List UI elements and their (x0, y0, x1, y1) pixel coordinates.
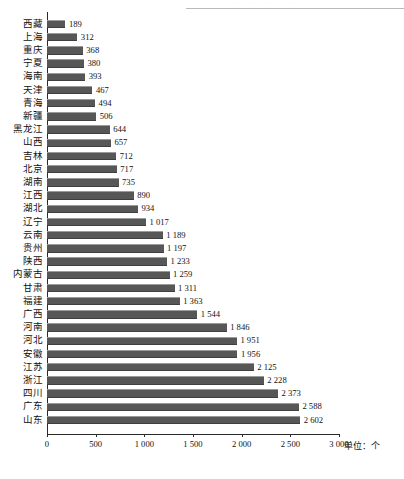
category-label: 云南 (0, 229, 43, 242)
category-label: 黑龙江 (0, 123, 43, 136)
bar-fill (47, 125, 110, 133)
bar (47, 310, 197, 318)
x-tick (96, 434, 97, 437)
bar-row: 北京717 (0, 163, 404, 176)
bar (47, 86, 92, 94)
bar-row: 江苏2 125 (0, 361, 404, 374)
bar-fill (47, 152, 116, 160)
value-label: 189 (69, 18, 82, 31)
value-label: 368 (86, 44, 99, 57)
category-label: 甘肃 (0, 282, 43, 295)
value-label: 1 197 (167, 242, 186, 255)
category-label: 天津 (0, 84, 43, 97)
bar-fill (47, 363, 254, 371)
bar-row: 山西657 (0, 136, 404, 149)
category-label: 四川 (0, 387, 43, 400)
bar-row: 广东2 588 (0, 400, 404, 413)
bar (47, 125, 110, 133)
bar-fill (47, 59, 84, 67)
value-label: 1 259 (173, 268, 192, 281)
category-label: 青海 (0, 97, 43, 110)
category-label: 山西 (0, 136, 43, 149)
value-label: 467 (96, 84, 109, 97)
category-label: 广东 (0, 400, 43, 413)
bar (47, 139, 111, 147)
bar-row: 宁夏380 (0, 57, 404, 70)
bar-fill (47, 112, 96, 120)
bar (47, 231, 163, 239)
bar (47, 33, 77, 41)
category-label: 河南 (0, 321, 43, 334)
bar-row: 上海312 (0, 31, 404, 44)
bar-row: 湖北934 (0, 202, 404, 215)
bar-fill (47, 46, 83, 54)
bar-row: 陕西1 233 (0, 255, 404, 268)
bar-fill (47, 33, 77, 41)
bar (47, 297, 180, 305)
page-header: ·· ·· ··· · ·· · (186, 0, 404, 10)
value-label: 1 846 (230, 321, 249, 334)
bar-row: 江西890 (0, 189, 404, 202)
bar (47, 403, 299, 411)
value-label: 644 (113, 123, 126, 136)
bar (47, 323, 227, 331)
bar-row: 湖南735 (0, 176, 404, 189)
value-label: 1 189 (166, 229, 185, 242)
category-label: 广西 (0, 308, 43, 321)
bar (47, 152, 116, 160)
category-label: 海南 (0, 70, 43, 83)
category-label: 西藏 (0, 18, 43, 31)
x-tick-label: 1 000 (135, 439, 154, 449)
value-label: 494 (99, 97, 112, 110)
bar-fill (47, 416, 300, 424)
bar (47, 363, 254, 371)
bar (47, 20, 65, 28)
bar-fill (47, 139, 111, 147)
bar-row: 辽宁1 017 (0, 216, 404, 229)
value-label: 312 (81, 31, 94, 44)
x-tick (242, 434, 243, 437)
bar (47, 376, 264, 384)
bar-row: 河北1 951 (0, 334, 404, 347)
bar-row: 云南1 189 (0, 229, 404, 242)
bar-row: 海南393 (0, 70, 404, 83)
value-label: 890 (137, 189, 150, 202)
x-tick (144, 434, 145, 437)
bar (47, 73, 85, 81)
value-label: 393 (89, 70, 102, 83)
bar-row: 新疆506 (0, 110, 404, 123)
bar-row: 青海494 (0, 97, 404, 110)
page-header-ghost-text: ·· ·· ··· · ·· · (234, 0, 307, 5)
bar-row: 浙江2 228 (0, 374, 404, 387)
bar-fill (47, 99, 95, 107)
bar-row: 河南1 846 (0, 321, 404, 334)
bar (47, 165, 117, 173)
bar (47, 257, 167, 265)
value-label: 1 956 (241, 348, 260, 361)
bar-fill (47, 271, 170, 279)
category-label: 湖南 (0, 176, 43, 189)
category-label: 吉林 (0, 150, 43, 163)
bar-fill (47, 218, 146, 226)
bar-row: 福建1 363 (0, 295, 404, 308)
category-label: 辽宁 (0, 216, 43, 229)
bar-row: 四川2 373 (0, 387, 404, 400)
bar (47, 218, 146, 226)
bar-fill (47, 244, 164, 252)
bar-row: 贵州1 197 (0, 242, 404, 255)
bar-fill (47, 350, 237, 358)
bar (47, 244, 164, 252)
x-tick-label: 0 (45, 439, 49, 449)
value-label: 712 (120, 150, 133, 163)
bar (47, 205, 138, 213)
bar (47, 284, 175, 292)
value-label: 934 (141, 202, 154, 215)
bar-fill (47, 337, 237, 345)
x-tick (290, 434, 291, 437)
bar (47, 46, 83, 54)
value-label: 1 951 (240, 334, 259, 347)
bar-fill (47, 403, 299, 411)
value-label: 1 017 (149, 216, 168, 229)
value-label: 717 (120, 163, 133, 176)
category-label: 福建 (0, 295, 43, 308)
